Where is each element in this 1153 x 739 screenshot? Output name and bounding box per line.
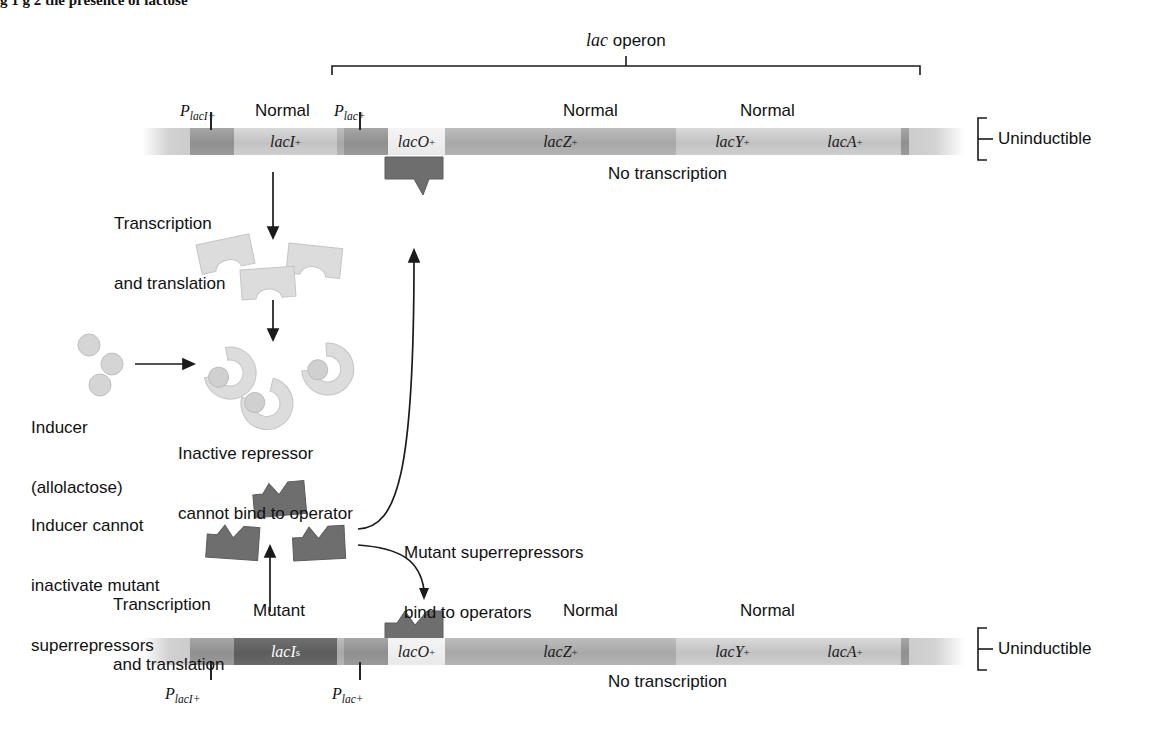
bottom_panel-lacO-operator-label: lacO: [398, 643, 429, 661]
top_panel-segment-lacA-gene: lacA+: [789, 128, 901, 155]
top_panel-promoter-sub: lacI+: [190, 110, 216, 122]
transcription-translation-bottom: Transcription and translation: [113, 555, 225, 695]
top_panel-lacY-gene-sup: +: [744, 136, 750, 148]
bottom_panel-segment-lacA-gene: lacA+: [789, 638, 901, 665]
top_panel-promoter-sub: lac+: [344, 110, 366, 122]
bottom_panel-lacY-gene-label: lacY: [715, 643, 743, 661]
bottom_panel-promoter-tick: [359, 662, 361, 680]
bottom_panel-promoter-label: Plac+: [332, 685, 364, 705]
tt-top-line1: Transcription: [114, 214, 226, 234]
bottom_panel-promoter-main: P: [332, 685, 342, 702]
tt-bottom-line2: and translation: [113, 655, 225, 675]
top_panel-promoter-tick: [359, 112, 361, 130]
bottom_panel-state-label: Mutant: [253, 601, 305, 621]
inactive-repressor-label: Inactive repressor cannot bind to operat…: [178, 404, 353, 544]
bottom_panel-segment-lacY-gene: lacY+: [676, 638, 789, 665]
arrow-inducer-binds: [135, 359, 194, 369]
bottom_panel-segment-lacIs-gene: lacIs: [234, 638, 337, 665]
top_panel-segment-left-fade: [142, 128, 190, 155]
transcription-translation-top: Transcription and translation: [114, 174, 226, 314]
bottom_panel-lacY-gene-sup: +: [744, 646, 750, 658]
bind-operators-line2: bind to operators: [404, 603, 584, 623]
bottom-no-transcription-label: No transcription: [608, 672, 727, 692]
top_panel-lacO-operator-sup: +: [429, 136, 435, 148]
arrow-repressor-down: [268, 300, 278, 340]
top_panel-segment-promoter-lac: [344, 128, 388, 155]
top_panel-promoter-main: P: [180, 102, 190, 119]
top_panel-lacI-gene-sup: +: [295, 136, 301, 148]
bind-operators-label: Mutant superrepressors bind to operators: [404, 503, 584, 643]
bottom_panel-segment-right-fade: [909, 638, 965, 665]
top_panel-lacO-operator-label: lacO: [398, 133, 429, 151]
top_panel-lacZ-gene-sup: +: [572, 136, 578, 148]
operon-label-italic: lac: [586, 30, 608, 50]
top_panel-state-label: Normal: [740, 101, 795, 121]
top_panel-segment-lacI-gene: lacI+: [234, 128, 337, 155]
top_panel-state-label: Normal: [255, 101, 310, 121]
inducer-cannot-line1: Inducer cannot: [31, 516, 160, 536]
inactive-repressor-line2: cannot bind to operator: [178, 504, 353, 524]
bottom_panel-segment-promoter-lac: [344, 638, 388, 665]
tt-top-line2: and translation: [114, 274, 226, 294]
top_panel-segment-lacZ-gene: lacZ+: [445, 128, 676, 155]
top_panel-segment-right-fade: [909, 128, 965, 155]
tt-bottom-line1: Transcription: [113, 595, 225, 615]
repressor-bound-top-operator: [385, 157, 443, 195]
inactive-repressor-line1: Inactive repressor: [178, 444, 353, 464]
bottom_panel-lacA-gene-label: lacA: [827, 643, 856, 661]
top_panel-segment-lacY-gene: lacY+: [676, 128, 789, 155]
bottom_panel-lacO-operator-sup: +: [429, 646, 435, 658]
bottom_panel-promoter-sub: lac+: [342, 693, 364, 705]
bottom_panel-state-label: Normal: [740, 601, 795, 621]
top_panel-promoter-main: P: [334, 102, 344, 119]
operon-bracket-label: lac operon: [586, 30, 666, 51]
top_panel-segment-lacO-operator: lacO+: [388, 128, 445, 155]
bottom_panel-lacA-gene-sup: +: [857, 646, 863, 658]
inducer-line1: Inducer: [31, 418, 123, 438]
bottom_panel-lacZ-gene-sup: +: [572, 646, 578, 658]
top_panel-state-label: Normal: [563, 101, 618, 121]
top_panel-lacY-gene-label: lacY: [715, 133, 743, 151]
top_panel-segment-promoter-lacI: [190, 128, 234, 155]
bottom_panel-segment-spacer-1: [337, 638, 344, 665]
figure-caption: g 1 g 2 the presence of lactose: [0, 0, 520, 8]
bind-operators-line1: Mutant superrepressors: [404, 543, 584, 563]
bottom_panel-lacZ-gene-label: lacZ: [543, 643, 571, 661]
top_panel-lacA-gene-sup: +: [857, 136, 863, 148]
top_panel-lacA-gene-label: lacA: [827, 133, 856, 151]
arrow-transcription-top: [268, 172, 278, 238]
top_panel-promoter-label: Plac+: [334, 102, 366, 122]
bottom_panel-lacIs-gene-label: lacI: [271, 643, 296, 661]
bottom_panel-segment-spacer-2: [901, 638, 909, 665]
operon-label-rest: operon: [608, 31, 666, 50]
top_panel-segment-spacer-2: [901, 128, 909, 155]
top-genome-bar: lacI+lacO+lacZ+lacY+lacA+: [0, 128, 1153, 155]
top_panel-lacI-gene-label: lacI: [270, 133, 295, 151]
top_panel-segment-spacer-1: [337, 128, 344, 155]
bottom_panel-lacIs-gene-sup: s: [296, 646, 300, 658]
top_panel-lacZ-gene-label: lacZ: [543, 133, 571, 151]
operon-bracket: [332, 56, 920, 75]
top-outcome-label: Uninductible: [998, 129, 1092, 149]
top_panel-promoter-tick: [210, 112, 212, 130]
arrow-superrepressor-to-top-operator: [358, 250, 419, 529]
bottom-outcome-label: Uninductible: [998, 639, 1092, 659]
top-no-transcription-label: No transcription: [608, 164, 727, 184]
